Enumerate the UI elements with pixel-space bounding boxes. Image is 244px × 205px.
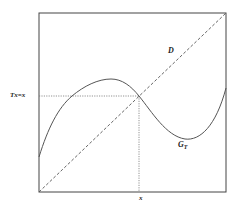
fixed-point-diagram — [0, 0, 244, 205]
diagonal-label: D — [168, 47, 174, 55]
graph-curve-gt — [39, 79, 226, 157]
x-axis-point-label: x — [139, 195, 143, 202]
graph-label-subscript: T — [184, 144, 188, 150]
graph-label: GT — [178, 141, 187, 150]
fixed-point-value-label: Tx=x — [10, 92, 25, 99]
diagonal-line-d — [39, 13, 226, 192]
